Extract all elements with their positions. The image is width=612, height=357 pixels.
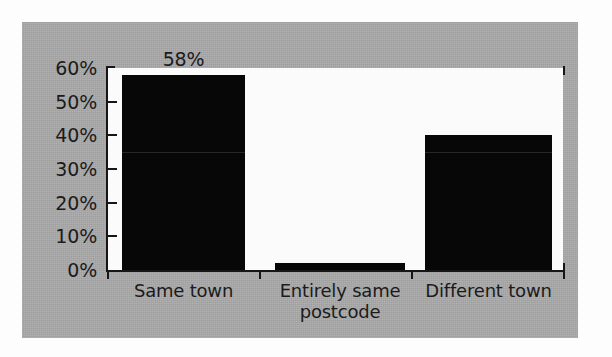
y-axis-tick-label: 50% xyxy=(22,92,97,111)
x-axis-category-label: Different town xyxy=(394,281,584,302)
y-axis-tick-label: 20% xyxy=(22,193,97,212)
y-axis-tick-label: 0% xyxy=(22,261,97,280)
y-axis-tick-label: 10% xyxy=(22,227,97,246)
bar[interactable] xyxy=(122,75,245,270)
y-axis-tick xyxy=(108,235,117,237)
x-axis-tick xyxy=(411,271,413,279)
chart-panel: 60%50%40%30%20%10%0% 58%2%40% Same townE… xyxy=(22,22,578,338)
y-axis-tick-label: 30% xyxy=(22,160,97,179)
x-axis-tick xyxy=(107,271,109,279)
plot-area xyxy=(108,68,563,270)
axis-corner-cap-top-right xyxy=(563,66,565,75)
bar[interactable] xyxy=(275,263,405,270)
y-axis-tick xyxy=(108,168,117,170)
axis-corner-cap-top-left xyxy=(106,66,115,68)
y-axis-tick-label: 40% xyxy=(22,126,97,145)
y-axis-tick xyxy=(108,134,117,136)
bar[interactable] xyxy=(425,135,552,270)
y-axis-tick-label: 60% xyxy=(22,59,97,78)
bar-value-label: 58% xyxy=(163,50,205,69)
y-axis-tick xyxy=(108,202,117,204)
x-axis-tick xyxy=(259,271,261,279)
x-axis-tick xyxy=(563,271,565,279)
chart-figure: 60%50%40%30%20%10%0% 58%2%40% Same townE… xyxy=(0,0,612,357)
x-axis-line xyxy=(106,270,565,272)
y-axis-tick xyxy=(108,101,117,103)
